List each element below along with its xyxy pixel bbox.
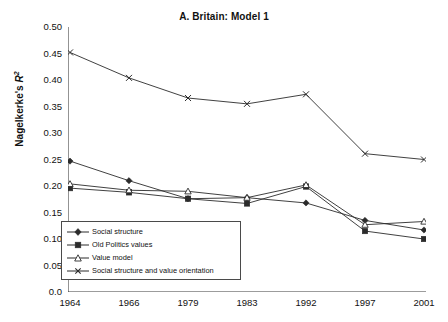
legend-marker-open-triangle-icon [66, 252, 90, 264]
y-axis-tick-label: 0.40 [28, 74, 62, 85]
y-axis-tick-label: 0.30 [28, 127, 62, 138]
x-axis-tick-label: 1997 [338, 297, 392, 308]
y-axis-tick-label: 0.45 [28, 48, 62, 59]
legend-item-social-structure-and-value-orientation[interactable]: Social structure and value orientation [66, 264, 236, 277]
y-axis-label-text: Nagelkerke's [14, 83, 25, 147]
data-point-filled-square-icon [244, 201, 249, 206]
data-point-filled-square-icon [421, 236, 426, 241]
y-axis-tick-label: 0.15 [28, 207, 62, 218]
legend-label: Social structure and value orientation [90, 266, 214, 275]
x-axis-tick-label: 1992 [279, 297, 333, 308]
data-point-filled-diamond-icon [68, 158, 73, 164]
series-social-structure-and-value-orientation [68, 49, 426, 162]
data-point-cross-star-icon [126, 75, 132, 81]
x-axis-tick-label: 1983 [220, 297, 274, 308]
legend-item-value-model[interactable]: Value model [66, 251, 236, 264]
x-axis-tick-label: 1966 [102, 297, 156, 308]
legend-marker-filled-diamond-icon [66, 226, 90, 238]
y-axis-tick-label: 0.20 [28, 180, 62, 191]
y-axis-tick-label: 0.35 [28, 101, 62, 112]
legend-marker-cross-star-icon [66, 265, 90, 277]
legend-item-social-structure[interactable]: Social structure [66, 225, 236, 238]
x-axis-tick-label: 1964 [43, 297, 97, 308]
legend-item-old-politics-values[interactable]: Old Politics values [66, 238, 236, 251]
y-axis-tick-label: 0.25 [28, 154, 62, 165]
data-point-filled-diamond-icon [303, 200, 309, 206]
data-point-cross-star-icon [68, 49, 73, 55]
legend-label: Old Politics values [90, 240, 152, 249]
legend-label: Social structure [90, 227, 143, 236]
y-axis-label-exponent: 2 [13, 71, 20, 75]
legend: Social structure Old Politics values Val… [61, 221, 241, 280]
y-axis-tick-label: 0.50 [28, 21, 62, 32]
data-point-open-triangle-icon [68, 181, 73, 187]
chart-figure: A. Britain: Model 1 Nagelkerke's R2 0.50… [0, 0, 448, 322]
x-axis-tick-label: 2001 [397, 297, 448, 308]
x-axis-tick-label: 1979 [161, 297, 215, 308]
legend-marker-filled-square-icon [66, 239, 90, 251]
chart-title: A. Britain: Model 1 [0, 11, 448, 22]
data-point-filled-square-icon [362, 228, 367, 233]
series-line [70, 52, 424, 159]
data-point-filled-diamond-icon [126, 178, 132, 184]
y-axis-tick-label: 0.05 [28, 260, 62, 271]
data-point-filled-square-icon [185, 196, 190, 201]
data-point-filled-diamond-icon [421, 227, 426, 233]
y-axis-tick-label: 0.0 [28, 286, 62, 297]
y-axis-label-variable: R [14, 75, 25, 82]
y-axis-label: Nagelkerke's R2 [10, 29, 28, 189]
y-axis-tick-label: 0.10 [28, 233, 62, 244]
legend-label: Value model [90, 253, 133, 262]
